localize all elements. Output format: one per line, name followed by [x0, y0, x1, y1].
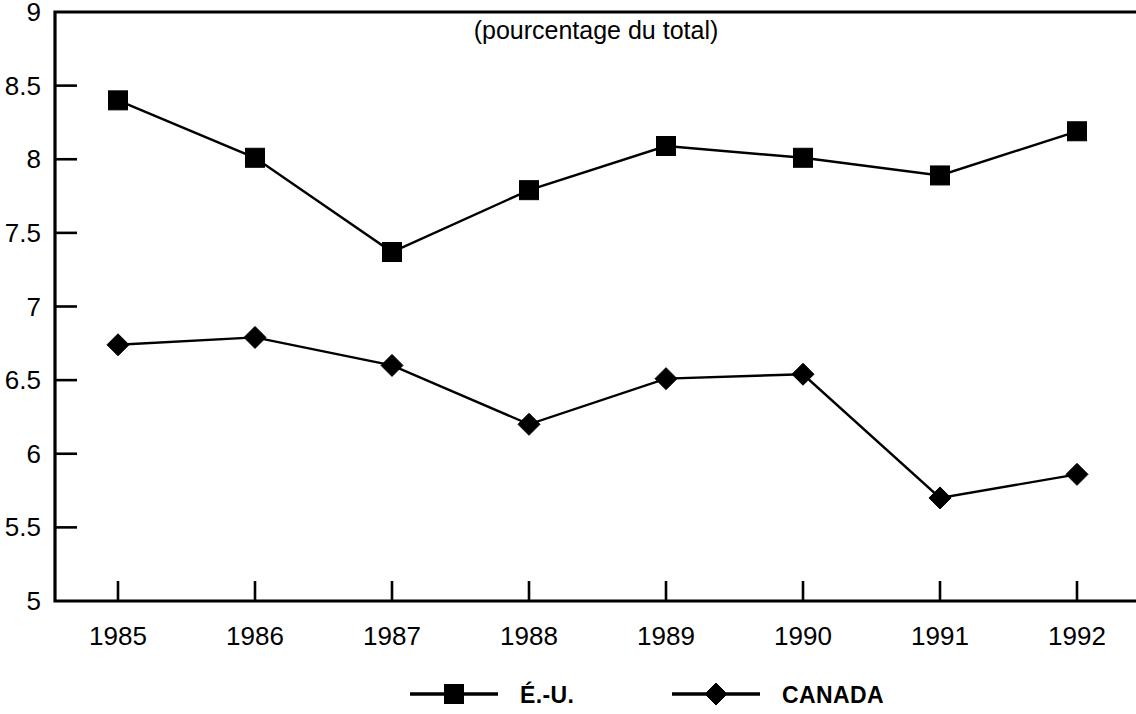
data-point-diamond-marker	[107, 334, 129, 356]
chart-container: (pourcentage du total) 55.566.577.588.59…	[0, 0, 1136, 714]
data-point-diamond-marker	[705, 683, 727, 705]
data-point-square-marker	[794, 148, 813, 167]
y-tick-label: 6	[27, 439, 41, 469]
data-series-group	[107, 91, 1088, 509]
data-point-diamond-marker	[655, 368, 677, 390]
data-point-square-marker	[445, 685, 464, 704]
y-tick-label: 6.5	[5, 365, 41, 395]
data-point-square-marker	[109, 91, 128, 110]
data-point-square-marker	[657, 136, 676, 155]
x-axis: 19851986198719881989199019911992	[89, 581, 1106, 651]
data-point-square-marker	[383, 243, 402, 262]
chart-title: (pourcentage du total)	[474, 16, 719, 44]
x-tick-label: 1987	[363, 621, 421, 651]
x-tick-label: 1985	[89, 621, 147, 651]
data-series	[107, 326, 1088, 509]
x-tick-label: 1991	[911, 621, 969, 651]
chart-legend: É.-U.CANADA	[410, 681, 884, 708]
data-point-diamond-marker	[518, 413, 540, 435]
x-tick-label: 1992	[1048, 621, 1106, 651]
y-tick-label: 8.5	[5, 71, 41, 101]
x-tick-label: 1988	[500, 621, 558, 651]
x-tick-label: 1990	[774, 621, 832, 651]
line-chart-figure: (pourcentage du total) 55.566.577.588.59…	[0, 0, 1136, 714]
y-tick-label: 7	[27, 292, 41, 322]
data-point-diamond-marker	[381, 354, 403, 376]
x-tick-label: 1989	[637, 621, 695, 651]
legend-label: CANADA	[782, 682, 884, 708]
data-point-square-marker	[1068, 122, 1087, 141]
y-tick-label: 8	[27, 144, 41, 174]
x-tick-label: 1986	[226, 621, 284, 651]
series-line	[118, 337, 1077, 498]
legend-entry: CANADA	[672, 682, 884, 708]
y-tick-label: 5.5	[5, 512, 41, 542]
legend-entry: É.-U.	[410, 681, 574, 708]
y-tick-label: 5	[27, 586, 41, 616]
plot-frame	[55, 12, 1136, 601]
y-axis: 55.566.577.588.59	[5, 0, 77, 616]
data-point-square-marker	[246, 148, 265, 167]
legend-label: É.-U.	[520, 681, 574, 708]
data-point-square-marker	[931, 166, 950, 185]
data-point-diamond-marker	[1066, 463, 1088, 485]
data-series	[109, 91, 1087, 262]
y-tick-label: 7.5	[5, 218, 41, 248]
data-point-square-marker	[520, 181, 539, 200]
data-point-diamond-marker	[244, 326, 266, 348]
y-tick-label: 9	[27, 0, 41, 27]
